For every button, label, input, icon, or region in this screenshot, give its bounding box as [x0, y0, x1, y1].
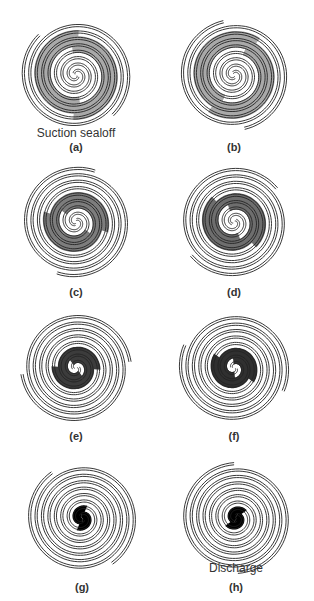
scroll-compressor-diagram [0, 0, 314, 601]
caption-h: Discharge [176, 561, 296, 575]
scroll-panel-b [181, 21, 286, 130]
compression-pocket [52, 353, 95, 389]
scroll-panel-e [21, 316, 131, 421]
scroll-panel-a [22, 25, 130, 126]
scroll-panel-c [25, 167, 128, 276]
caption-a: Suction sealoff [16, 126, 136, 140]
scroll-panel-f [179, 317, 288, 420]
panel-label-g: (g) [22, 581, 142, 593]
panel-label-d: (d) [174, 286, 294, 298]
scroll-panel-g [29, 468, 136, 568]
scroll-panel-h [184, 463, 289, 574]
panel-label-f: (f) [174, 430, 294, 442]
panel-label-c: (c) [16, 286, 136, 298]
panel-label-a: (a) [16, 141, 136, 153]
panel-label-e: (e) [16, 430, 136, 442]
panel-label-b: (b) [174, 141, 294, 153]
panel-label-h: (h) [176, 581, 296, 593]
scroll-panel-d [184, 168, 285, 275]
